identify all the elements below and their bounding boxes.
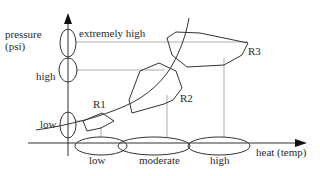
x-level-high: high (210, 154, 230, 166)
region-r3 (167, 32, 248, 67)
y-level-extremely-high: extremely high (79, 27, 146, 39)
x-level-moderate: moderate (139, 154, 180, 166)
y-axis-arrow-icon (64, 13, 72, 24)
region-r2 (129, 63, 182, 113)
x-set-low (75, 137, 127, 155)
y-level-low: low (40, 118, 57, 130)
x-axis-label: heat (temp) (256, 146, 307, 159)
fuzzy-pressure-heat-diagram: pressure (psi) extremely high high low l… (0, 0, 320, 176)
x-set-moderate (118, 137, 190, 155)
y-axis (64, 13, 72, 156)
region-r3-label: R3 (248, 45, 261, 57)
guide-lines (76, 42, 248, 138)
x-level-low: low (89, 154, 106, 166)
y-axis-label-line1: pressure (5, 28, 42, 40)
region-r1-label: R1 (93, 98, 106, 110)
y-level-high: high (36, 70, 56, 82)
x-set-high (188, 137, 250, 155)
region-r2-label: R2 (180, 92, 193, 104)
y-axis-label-line2: (psi) (5, 40, 26, 53)
